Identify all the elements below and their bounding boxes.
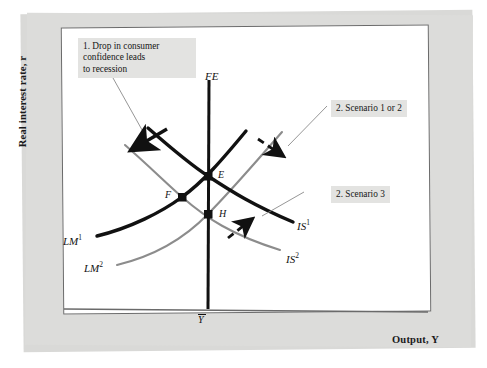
annotation-callout-1: 1. Drop in consumer confidence leads to … [78,38,196,78]
curve-label-is2-text: IS [286,253,295,265]
leader-line-annotation-2 [288,106,327,146]
curve-lm2 [117,132,282,265]
curve-label-lm1: LM1 [63,233,82,247]
annotation-callout-3: 2. Scenario 3 [331,186,390,203]
curve-label-is1-text: IS [297,220,306,232]
curve-label-is1-sup: 1 [306,218,310,227]
leader-line-annotation-3 [262,192,304,216]
curve-label-lm1-sup: 1 [78,233,82,242]
annotation-callout-2: 2. Scenario 1 or 2 [331,100,407,117]
arrow-annotation-2 [258,139,283,156]
point-marker-h [204,210,213,219]
curve-label-lm2-sup: 2 [99,260,103,269]
curve-fe [208,80,209,309]
diagram-canvas [0,0,487,368]
point-label-f: F [165,189,171,200]
curve-label-fe: FE [205,70,218,82]
curve-label-is2-sup: 2 [295,251,299,260]
curve-label-is2: IS2 [286,251,299,265]
point-marker-e [204,172,213,181]
curve-label-lm2-text: LM [84,262,99,274]
point-label-e: E [218,169,224,180]
figure-page: Real interest rate, r Output, Y Y [0,0,487,368]
curve-label-lm2: LM2 [84,260,103,274]
leader-line-annotation-1 [113,78,146,137]
curve-label-is1: IS1 [297,218,310,232]
curve-label-fe-text: FE [205,70,218,82]
curve-label-lm1-text: LM [63,235,78,247]
point-label-h: H [219,208,226,219]
x-axis-line [64,309,428,312]
point-marker-f [178,193,187,202]
